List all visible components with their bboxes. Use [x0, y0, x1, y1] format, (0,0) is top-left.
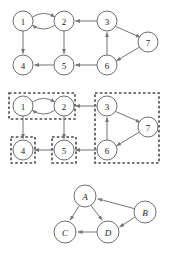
node-4[interactable]: 4: [13, 140, 33, 160]
edge-A-to-D: [91, 205, 103, 220]
node-5[interactable]: 5: [54, 55, 74, 75]
node-2-label: 2: [62, 17, 67, 27]
scc-boxes-panel: 1 2 3 4 5 6 7: [0, 85, 171, 170]
figure-container: 1 2 3 4 5 6 7: [0, 0, 171, 260]
node-7-label: 7: [146, 38, 151, 48]
edge-A-to-C: [70, 206, 79, 221]
directed-graph-panel: 1 2 3 4 5 6 7: [0, 0, 171, 85]
node-4-label: 4: [21, 61, 26, 71]
node-4-label: 4: [21, 146, 26, 156]
edge-2-to-1: [32, 110, 55, 114]
node-C-label: C: [62, 228, 69, 238]
edge-7-to-6: [116, 132, 139, 146]
node-5-label: 5: [62, 61, 67, 71]
node-3[interactable]: 3: [97, 96, 117, 116]
node-3-label: 3: [105, 102, 110, 112]
edge-3-to-7: [115, 111, 140, 122]
node-1-label: 1: [21, 102, 26, 112]
node-2[interactable]: 2: [54, 11, 74, 31]
node-A-label: A: [81, 192, 88, 202]
node-B-label: B: [142, 208, 148, 218]
node-6[interactable]: 6: [97, 140, 117, 160]
node-D-label: D: [104, 228, 112, 238]
node-2-label: 2: [62, 102, 67, 112]
edge-1-to-2: [32, 13, 55, 17]
edge-2-to-1: [32, 25, 55, 29]
node-1[interactable]: 1: [13, 96, 33, 116]
condensation-graph-panel: A B C D: [0, 170, 171, 260]
node-D[interactable]: D: [97, 221, 119, 243]
node-5[interactable]: 5: [54, 140, 74, 160]
node-5-label: 5: [62, 146, 67, 156]
node-6[interactable]: 6: [97, 55, 117, 75]
node-group: A B C D: [54, 185, 156, 243]
edge-B-to-A: [98, 199, 135, 209]
node-C[interactable]: C: [54, 221, 76, 243]
node-4[interactable]: 4: [13, 55, 33, 75]
edge-1-to-2: [32, 98, 55, 102]
node-7[interactable]: 7: [138, 32, 158, 52]
node-1-label: 1: [21, 17, 26, 27]
edge-7-to-6: [116, 47, 139, 61]
node-6-label: 6: [105, 61, 110, 71]
node-1[interactable]: 1: [13, 11, 33, 31]
node-B[interactable]: B: [134, 201, 156, 223]
node-7[interactable]: 7: [138, 117, 158, 137]
edge-B-to-D: [120, 217, 136, 227]
node-6-label: 6: [105, 146, 110, 156]
edge-group: [23, 98, 140, 150]
node-3[interactable]: 3: [97, 11, 117, 31]
edge-3-to-7: [115, 26, 140, 37]
node-3-label: 3: [105, 17, 110, 27]
node-7-label: 7: [146, 123, 151, 133]
node-2[interactable]: 2: [54, 96, 74, 116]
node-A[interactable]: A: [74, 185, 96, 207]
edge-group: [23, 13, 140, 65]
